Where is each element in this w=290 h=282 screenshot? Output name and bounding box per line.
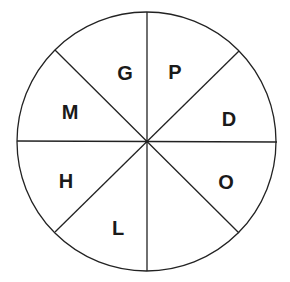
sector-circle <box>0 0 290 282</box>
sector-label-m: M <box>62 102 79 122</box>
sector-label-d: D <box>222 109 236 129</box>
sector-label-o: O <box>218 172 234 192</box>
sector-label-l: L <box>112 218 124 238</box>
sector-label-g: G <box>117 63 133 83</box>
center-point <box>145 140 148 143</box>
sector-label-h: H <box>59 171 73 191</box>
sector-label-p: P <box>168 62 181 82</box>
